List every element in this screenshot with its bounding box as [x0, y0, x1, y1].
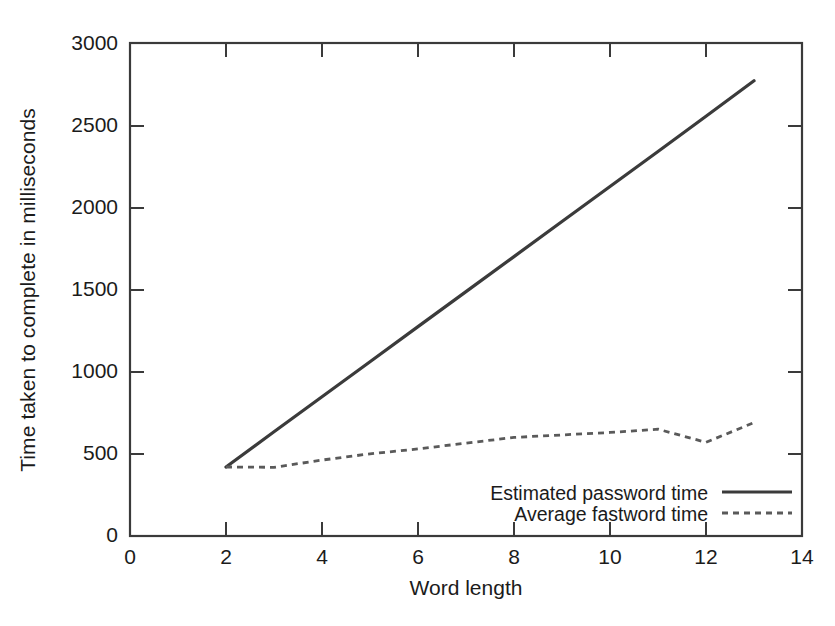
series-line-average-fastword-time [226, 423, 754, 468]
chart-figure: Time taken to complete in milliseconds 3… [0, 0, 835, 626]
series-line-estimated-password-time [226, 81, 754, 467]
plot-area [0, 0, 835, 626]
x-tick-marks [226, 43, 706, 536]
